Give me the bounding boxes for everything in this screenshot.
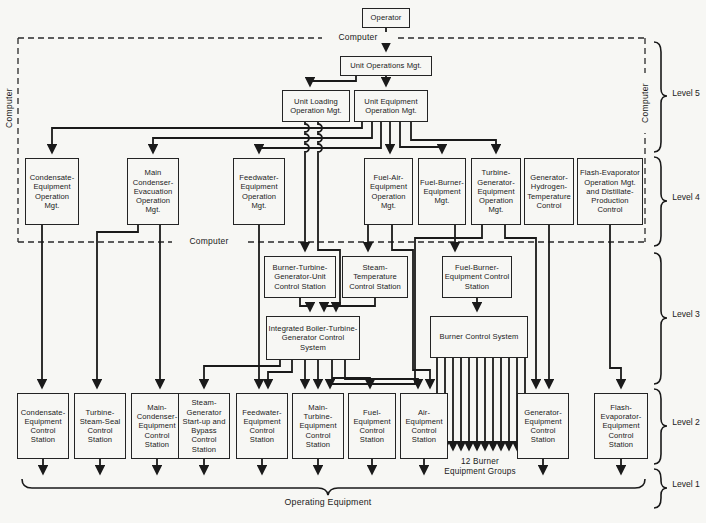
- steam-generator-startup-station-box: Steam-Generator Start-up and Bypass Cont…: [178, 393, 230, 459]
- main-condenser-station-box: Main-Condenser-Equipment Control Station: [131, 393, 183, 459]
- fuel-air-equipment-operation-box: Fuel-Air-Equipment Operation Mgt.: [364, 158, 413, 225]
- computer-label-right: Computer: [640, 73, 650, 133]
- burner-groups-label: 12 Burner Equipment Groups: [440, 457, 520, 478]
- level-4-label: Level 4: [668, 192, 704, 203]
- integrated-boiler-turbine-generator-box: Integrated Boiler-Turbine-Generator Cont…: [266, 316, 360, 360]
- operating-equipment-label: Operating Equipment: [268, 497, 388, 508]
- burner-control-system-box: Burner Control System: [430, 316, 528, 358]
- level-braces: [654, 42, 667, 508]
- fuel-burner-equipment-station-box: Fuel-Burner-Equipment Control Station: [442, 256, 512, 298]
- bottom-brace: [22, 479, 645, 495]
- burner-bundle: [437, 358, 525, 449]
- air-station-box: Air-Equipment Control Station: [400, 393, 448, 459]
- unit-operations-mgt-box: Unit Operations Mgt.: [340, 56, 432, 76]
- unit-loading-operation-mgt-box: Unit Loading Operation Mgt.: [282, 90, 350, 122]
- flash-evaporator-station-box: Flash-Evaporator-Equipment Control Stati…: [594, 393, 648, 459]
- condensate-equipment-operation-box: Condensate-Equipment Operation Mgt.: [25, 158, 79, 225]
- turbine-steam-seal-station-box: Turbine-Steam-Seal Control Station: [74, 393, 126, 459]
- computer-label-top: Computer: [322, 32, 394, 43]
- main-turbine-station-box: Main-Turbine-Equipment Control Station: [292, 393, 344, 459]
- computer-label-bottom: Computer: [172, 236, 246, 247]
- burner-turbine-generator-unit-station-box: Burner-Turbine-Generator-Unit Control St…: [264, 256, 336, 298]
- feedwater-equipment-operation-box: Feedwater-Equipment Operation Mgt.: [233, 158, 285, 225]
- unit-equipment-operation-mgt-box: Unit Equipment Operation Mgt.: [354, 90, 428, 122]
- generator-station-box: Generator-Equipment Control Station: [517, 393, 569, 459]
- level-3-label: Level 3: [668, 309, 704, 320]
- fuel-burner-equipment-mgt-box: Fuel-Burner-Equipment Mgt.: [418, 158, 466, 225]
- station-outputs: [43, 459, 621, 473]
- feedwater-station-box: Feedwater-Equipment Control Station: [236, 393, 288, 459]
- level-5-label: Level 5: [668, 88, 704, 99]
- fuel-station-box: Fuel-Equipment Control Station: [348, 393, 396, 459]
- flash-evaporator-operation-box: Flash-Evaporator Operation Mgt. and Dist…: [577, 158, 643, 225]
- condensate-station-box: Condensate-Equipment Control Station: [17, 393, 69, 459]
- level-1-label: Level 1: [668, 479, 704, 490]
- operator-box: Operator: [362, 8, 410, 28]
- steam-temperature-station-box: Steam-Temperature Control Station: [342, 256, 408, 298]
- main-condenser-evacuation-box: Main Condenser-Evacuation Operation Mgt.: [127, 158, 179, 225]
- generator-hydrogen-temperature-box: Generator-Hydrogen-Temperature Control: [524, 158, 574, 225]
- level-2-label: Level 2: [668, 417, 704, 428]
- turbine-generator-equipment-operation-box: Turbine-Generator-Equipment Operation Mg…: [471, 158, 521, 225]
- computer-label-left: Computer: [4, 78, 14, 138]
